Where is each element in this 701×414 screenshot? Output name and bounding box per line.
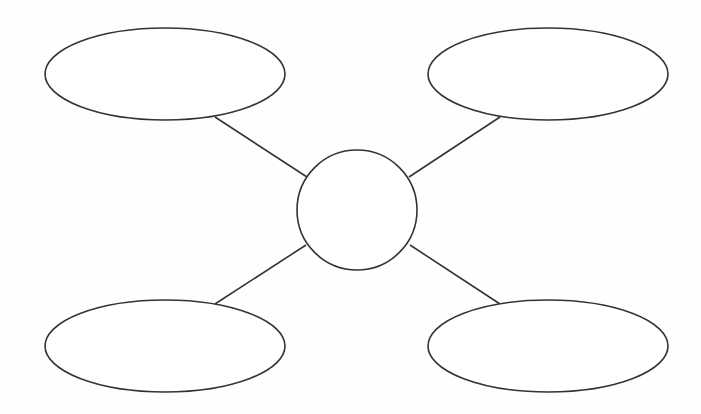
node-bottom-left[interactable] — [45, 300, 285, 392]
spider-map-diagram — [0, 0, 701, 414]
node-top-left[interactable] — [45, 28, 285, 120]
node-top-right[interactable] — [428, 28, 668, 120]
ellipse-bottom-right[interactable] — [428, 300, 668, 392]
center-circle[interactable] — [297, 150, 417, 270]
ellipse-bottom-left[interactable] — [45, 300, 285, 392]
node-bottom-right[interactable] — [428, 300, 668, 392]
ellipse-top-right[interactable] — [428, 28, 668, 120]
node-center[interactable] — [297, 150, 417, 270]
ellipse-top-left[interactable] — [45, 28, 285, 120]
